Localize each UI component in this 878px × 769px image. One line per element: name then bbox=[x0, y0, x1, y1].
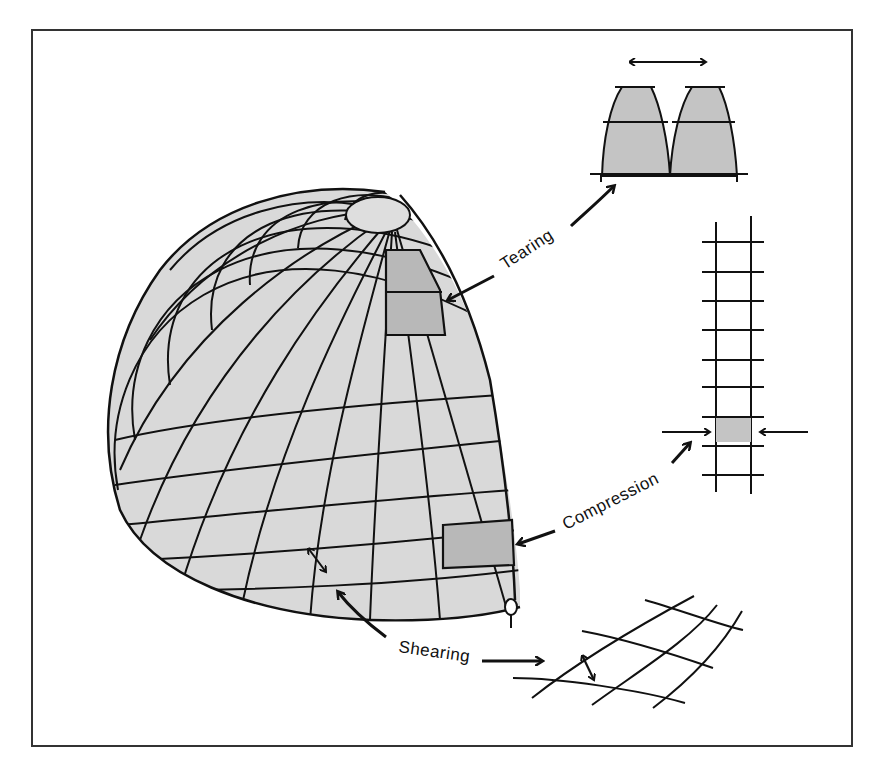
shearing-detail-inset bbox=[513, 596, 743, 708]
compression-detail-inset bbox=[662, 216, 808, 494]
dome-apex-cap bbox=[346, 197, 410, 233]
tearing-arrow-to-inset bbox=[571, 186, 614, 226]
diagram-canvas: Tearing Compression Shearing bbox=[0, 0, 878, 769]
compression-arrow-to-inset bbox=[672, 443, 690, 463]
compression-label: Compression bbox=[559, 469, 662, 534]
compression-arrow-to-dome bbox=[518, 531, 555, 544]
compression-cell-highlight bbox=[443, 520, 514, 568]
support-node bbox=[505, 599, 517, 615]
tearing-detail-inset bbox=[590, 62, 748, 182]
tearing-label: Tearing bbox=[497, 225, 557, 273]
shearing-label: Shearing bbox=[397, 637, 471, 666]
